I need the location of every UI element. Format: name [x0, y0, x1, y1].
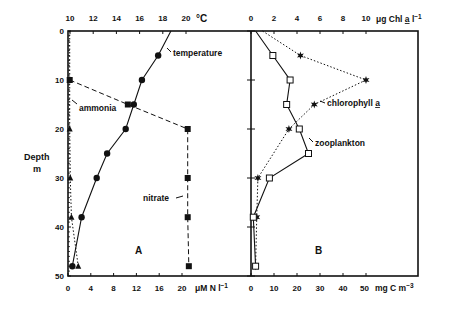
- y-axis-title: Depth: [24, 152, 50, 162]
- carbon-axis-unit: mg C m−3: [375, 282, 414, 293]
- svg-text:10: 10: [362, 14, 371, 23]
- svg-text:12: 12: [89, 14, 98, 23]
- svg-text:50: 50: [360, 284, 369, 293]
- nitrate-pointer: [176, 196, 183, 198]
- zooplankton-series: [250, 31, 311, 269]
- panel-b-label: B: [315, 245, 322, 256]
- svg-text:10: 10: [66, 14, 75, 23]
- temperature-pointer: [167, 48, 171, 52]
- svg-text:20: 20: [182, 14, 191, 23]
- svg-text:30: 30: [316, 284, 325, 293]
- chlorophyll-label: chlorophyll a: [327, 98, 380, 108]
- svg-text:18: 18: [158, 14, 167, 23]
- y-axis-unit: m: [33, 164, 41, 174]
- svg-text:0: 0: [249, 14, 254, 23]
- ammonia-label: ammonia: [79, 103, 117, 113]
- svg-text:16: 16: [135, 14, 144, 23]
- temperature-label: temperature: [173, 48, 222, 58]
- data-series: [67, 31, 370, 270]
- svg-text:12: 12: [132, 284, 141, 293]
- svg-text:40: 40: [339, 284, 348, 293]
- svg-text:20: 20: [55, 125, 64, 134]
- svg-text:8: 8: [341, 14, 346, 23]
- svg-text:6: 6: [318, 14, 323, 23]
- svg-text:0: 0: [249, 284, 254, 293]
- svg-text:10: 10: [55, 76, 64, 85]
- zooplankton-label: zooplankton: [315, 138, 365, 148]
- temp-axis-unit: °C: [196, 13, 207, 24]
- svg-text:4: 4: [89, 284, 94, 293]
- chl-axis-unit: μg Chl a l−1: [376, 13, 422, 24]
- depth-profile-chart: 0102030405010121416182004812162002468100…: [0, 0, 451, 310]
- svg-text:10: 10: [270, 284, 279, 293]
- svg-text:20: 20: [178, 284, 187, 293]
- svg-text:30: 30: [55, 174, 64, 183]
- temperature-series: [69, 31, 171, 269]
- plot-frame: [68, 31, 418, 276]
- svg-text:16: 16: [155, 284, 164, 293]
- nitrogen-axis-unit: μM N l−1: [195, 282, 228, 293]
- svg-text:20: 20: [293, 284, 302, 293]
- svg-text:50: 50: [55, 272, 64, 281]
- svg-text:40: 40: [55, 223, 64, 232]
- zooplankton-pointer: [309, 138, 313, 142]
- svg-text:8: 8: [111, 284, 116, 293]
- svg-text:14: 14: [112, 14, 121, 23]
- svg-text:4: 4: [295, 14, 300, 23]
- panel-a-label: A: [135, 245, 142, 256]
- svg-text:0: 0: [60, 27, 65, 36]
- ammonia-pointer: [72, 100, 77, 104]
- nitrate-label: nitrate: [143, 193, 169, 203]
- svg-text:2: 2: [272, 14, 277, 23]
- svg-text:0: 0: [66, 284, 71, 293]
- chlorophyll-pointer: [320, 101, 325, 103]
